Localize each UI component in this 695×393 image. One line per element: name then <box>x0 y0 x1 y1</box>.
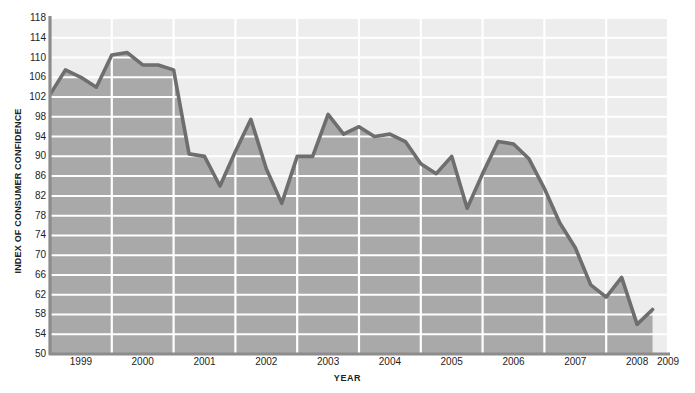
y-axis-tick-label: 114 <box>20 33 46 43</box>
consumer-confidence-chart: INDEX OF CONSUMER CONFIDENCE YEAR 505458… <box>0 0 695 393</box>
y-axis-tick-label: 110 <box>20 53 46 63</box>
y-axis-tick-label: 86 <box>20 171 46 181</box>
y-axis-tick-label: 106 <box>20 72 46 82</box>
y-axis-tick-label: 58 <box>20 309 46 319</box>
y-axis-tick-label: 70 <box>20 250 46 260</box>
y-axis-tick-label: 118 <box>20 13 46 23</box>
y-axis-tick-label: 90 <box>20 151 46 161</box>
y-axis-tick-label: 50 <box>20 349 46 359</box>
y-axis-tick-label: 54 <box>20 329 46 339</box>
x-axis-title: YEAR <box>0 373 695 383</box>
x-axis-tick-label: 2001 <box>175 356 235 367</box>
y-axis-tick-label: 102 <box>20 92 46 102</box>
plot-area <box>0 0 695 393</box>
x-axis-tick-label: 2009 <box>638 356 695 367</box>
x-axis-tick-label: 2005 <box>422 356 482 367</box>
y-axis-tick-label: 74 <box>20 230 46 240</box>
x-axis-tick-label: 2004 <box>360 356 420 367</box>
y-axis-tick-label: 94 <box>20 132 46 142</box>
y-axis-tick-label: 98 <box>20 112 46 122</box>
y-axis-tick-label: 82 <box>20 191 46 201</box>
x-axis-tick-label: 2007 <box>545 356 605 367</box>
x-axis-tick-label: 2002 <box>236 356 296 367</box>
y-axis-tick-label: 66 <box>20 270 46 280</box>
y-axis-tick-label: 78 <box>20 211 46 221</box>
x-axis-tick-label: 2003 <box>298 356 358 367</box>
y-axis-tick-labels: 5054586266707478828690949810210611011411… <box>18 0 46 393</box>
x-axis-tick-label: 2006 <box>484 356 544 367</box>
y-axis-tick-label: 62 <box>20 290 46 300</box>
x-axis-tick-label: 2000 <box>113 356 173 367</box>
x-axis-tick-label: 1999 <box>51 356 111 367</box>
